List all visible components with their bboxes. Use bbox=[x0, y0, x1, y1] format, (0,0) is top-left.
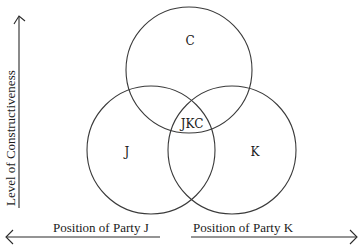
circle-k bbox=[168, 86, 296, 214]
intersection-label-jkc: JKC bbox=[179, 117, 204, 131]
x-axis-right-label: Position of Party K bbox=[193, 220, 294, 235]
x-axis-left: Position of Party J bbox=[6, 220, 160, 244]
y-axis: Level of Constructiveness bbox=[3, 16, 25, 208]
x-axis-right: Position of Party K bbox=[191, 220, 357, 244]
x-axis-left-label: Position of Party J bbox=[53, 220, 149, 235]
set-label-j: J bbox=[123, 145, 130, 159]
y-axis-label: Level of Constructiveness bbox=[3, 70, 18, 206]
set-label-k: K bbox=[251, 145, 261, 159]
set-label-c: C bbox=[185, 34, 194, 48]
circle-j bbox=[87, 86, 215, 214]
circle-c bbox=[126, 7, 252, 133]
venn-diagram: Level of Constructiveness Position of Pa… bbox=[0, 0, 360, 250]
